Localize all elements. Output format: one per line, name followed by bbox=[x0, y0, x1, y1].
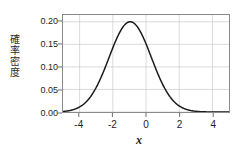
plot-canvas bbox=[63, 15, 229, 112]
x-axis-tick-labels: -4-2024 bbox=[0, 119, 240, 133]
y-axis-label-char-4: 度 bbox=[8, 67, 22, 78]
y-tick-label: 0.05 bbox=[26, 85, 58, 95]
vertical-gridlines bbox=[80, 15, 213, 112]
y-tick-label: 0.15 bbox=[26, 39, 58, 49]
y-axis-label-char-3: 密 bbox=[8, 56, 22, 67]
x-axis-tick-marks bbox=[79, 113, 213, 117]
y-axis-label: 確 率 密 度 bbox=[8, 34, 22, 78]
y-axis-label-char-2: 率 bbox=[8, 45, 22, 56]
x-axis-label: x bbox=[0, 133, 240, 148]
x-axis-label-text: x bbox=[136, 133, 142, 148]
y-tick-label: 0.10 bbox=[26, 62, 58, 72]
plot-area bbox=[62, 14, 230, 113]
y-axis-label-char-1: 確 bbox=[8, 34, 22, 45]
x-tick-label: 2 bbox=[177, 119, 183, 130]
x-tick-label: -2 bbox=[108, 119, 117, 130]
x-tick-label: -4 bbox=[74, 119, 83, 130]
y-tick-label: 0.20 bbox=[26, 16, 58, 26]
y-tick-label: 0.00 bbox=[26, 108, 58, 118]
x-tick-label: 4 bbox=[210, 119, 216, 130]
x-tick-label: 0 bbox=[143, 119, 149, 130]
chart-figure: 確 率 密 度 0.000.050.100.150.20 -4-2024 x bbox=[0, 0, 240, 155]
